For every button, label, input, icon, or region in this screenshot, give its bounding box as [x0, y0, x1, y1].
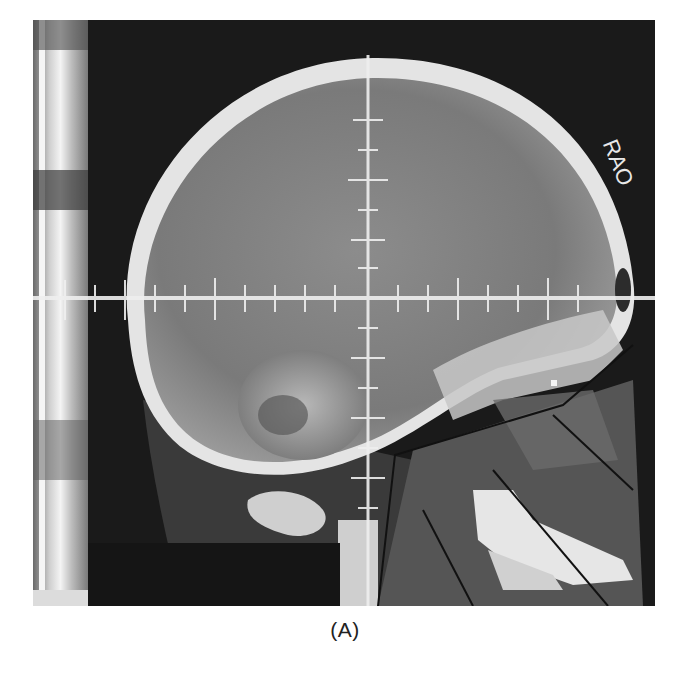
figure: RAO (A): [0, 0, 690, 675]
skull-radiograph: RAO: [33, 20, 655, 606]
orientation-marker: RAO: [598, 136, 639, 190]
panel-label: (A): [0, 618, 690, 642]
shield-block: [88, 543, 340, 606]
positioning-rod: [33, 20, 88, 606]
